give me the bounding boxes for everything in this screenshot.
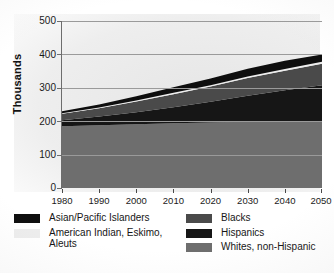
y-axis-title: Thousands	[11, 34, 23, 134]
legend-item-asian-pacific-islanders[interactable]: Asian/Pacific Islanders	[14, 212, 189, 224]
y-tick-label-100: 100	[16, 150, 56, 160]
y-tick-label-500: 500	[16, 16, 56, 26]
x-tick-label-2040: 2040	[265, 195, 305, 206]
y-tick-mark-500	[57, 21, 62, 22]
gridline-500	[62, 21, 322, 22]
y-axis-line	[61, 21, 62, 189]
gridline-200	[62, 121, 322, 122]
legend-swatch-whites-non-hispanic	[186, 243, 212, 252]
legend-item-whites-non-hispanic[interactable]: Whites, non-Hispanic	[186, 241, 334, 253]
x-tick-mark-2050	[321, 189, 322, 193]
x-tick-label-2050: 2050	[301, 195, 334, 206]
x-tick-mark-2020	[211, 189, 212, 193]
legend-column-right: Blacks Hispanics Whites, non-Hispanic	[186, 212, 334, 256]
x-axis: 1980 1990 2000 2010 2020 2030 2040 2050	[62, 189, 322, 211]
x-tick-mark-1980	[62, 189, 63, 193]
x-tick-label-1980: 1980	[42, 195, 82, 206]
plot-area	[62, 21, 322, 188]
y-tick-mark-400	[57, 54, 62, 55]
area-series-group	[62, 21, 322, 188]
legend-swatch-asian-pacific-islanders	[14, 214, 40, 223]
y-tick-mark-200	[57, 121, 62, 122]
x-tick-label-1990: 1990	[79, 195, 119, 206]
gridline-100	[62, 155, 322, 156]
chart-legend: Asian/Pacific Islanders American Indian,…	[0, 212, 334, 273]
legend-label-american-indian-eskimo-aleuts: American Indian, Eskimo, Aleuts	[49, 227, 162, 250]
legend-swatch-blacks	[186, 214, 212, 223]
legend-item-hispanics[interactable]: Hispanics	[186, 227, 334, 239]
y-tick-label-0: 0	[16, 183, 56, 193]
x-tick-label-2000: 2000	[116, 195, 156, 206]
y-tick-mark-300	[57, 88, 62, 89]
x-tick-mark-1990	[99, 189, 100, 193]
legend-item-american-indian-eskimo-aleuts[interactable]: American Indian, Eskimo, Aleuts	[14, 227, 189, 250]
legend-item-blacks[interactable]: Blacks	[186, 212, 334, 224]
x-tick-label-2010: 2010	[153, 195, 193, 206]
legend-swatch-hispanics	[186, 229, 212, 238]
legend-label-whites-non-hispanic: Whites, non-Hispanic	[221, 241, 315, 253]
y-tick-mark-100	[57, 155, 62, 156]
x-tick-mark-2000	[136, 189, 137, 193]
x-tick-mark-2040	[285, 189, 286, 193]
legend-label-blacks: Blacks	[221, 212, 250, 224]
x-tick-mark-2010	[173, 189, 174, 193]
x-tick-label-2020: 2020	[191, 195, 231, 206]
legend-label-asian-pacific-islanders: Asian/Pacific Islanders	[49, 212, 150, 224]
x-tick-mark-2030	[248, 189, 249, 193]
stacked-area-chart-figure: 500 400 300 200 100 0 Thousands	[0, 0, 334, 273]
legend-column-left: Asian/Pacific Islanders American Indian,…	[14, 212, 189, 253]
legend-label-hispanics: Hispanics	[221, 227, 264, 239]
gridline-300	[62, 88, 322, 89]
legend-swatch-american-indian-eskimo-aleuts	[14, 229, 40, 238]
gridline-400	[62, 54, 322, 55]
x-tick-label-2030: 2030	[228, 195, 268, 206]
